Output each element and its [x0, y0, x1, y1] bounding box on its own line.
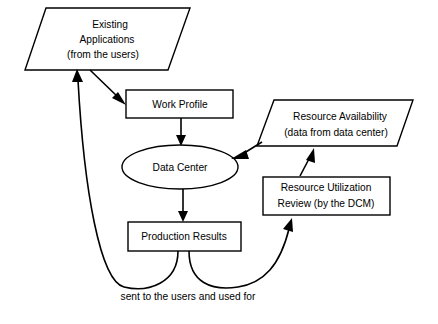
edge-review-to-resource-availability	[300, 148, 315, 176]
existing-applications-label-line1: Existing	[92, 19, 128, 30]
production-results-to-review-arrowhead	[283, 218, 293, 232]
resource-availability-label-line2: (data from data center)	[284, 127, 388, 138]
resource-utilization-review-label-line2: Review (by the DCM)	[278, 198, 375, 209]
node-production-results[interactable]: Production Results	[128, 222, 241, 251]
diagram-root: Existing Applications (from the users) W…	[0, 0, 438, 324]
diagram-caption: sent to the users and used for	[121, 291, 256, 302]
resource-availability-label-line1: Resource Availability	[293, 111, 388, 122]
production-results-label: Production Results	[141, 231, 227, 242]
resource-utilization-review-label-line1: Resource Utilization	[281, 182, 372, 193]
node-data-center[interactable]: Data Center	[122, 145, 238, 189]
node-resource-availability[interactable]: Resource Availability (data from data ce…	[257, 100, 413, 146]
node-resource-utilization-review[interactable]: Resource Utilization Review (by the DCM)	[263, 177, 390, 215]
production-results-to-apps-arrowhead	[72, 69, 83, 82]
work-profile-label: Work Profile	[152, 99, 208, 110]
edge-resource-availability-to-data-center	[231, 142, 262, 159]
existing-applications-label-line3: (from the users)	[67, 49, 139, 60]
resource-availability-parallelogram	[257, 100, 413, 146]
node-existing-applications[interactable]: Existing Applications (from the users)	[25, 8, 190, 70]
edge-apps-to-work-profile	[90, 70, 126, 105]
resource-availability-to-data-center-arrowhead	[231, 150, 249, 159]
diagram-canvas: Existing Applications (from the users) W…	[0, 0, 438, 324]
data-center-label: Data Center	[153, 162, 209, 173]
edge-data-center-to-production-results	[178, 189, 188, 222]
existing-applications-label-line2: Applications	[80, 34, 135, 45]
node-work-profile[interactable]: Work Profile	[126, 90, 233, 118]
edge-work-profile-to-data-center	[176, 118, 186, 146]
data-center-to-production-results-arrowhead	[178, 211, 188, 222]
